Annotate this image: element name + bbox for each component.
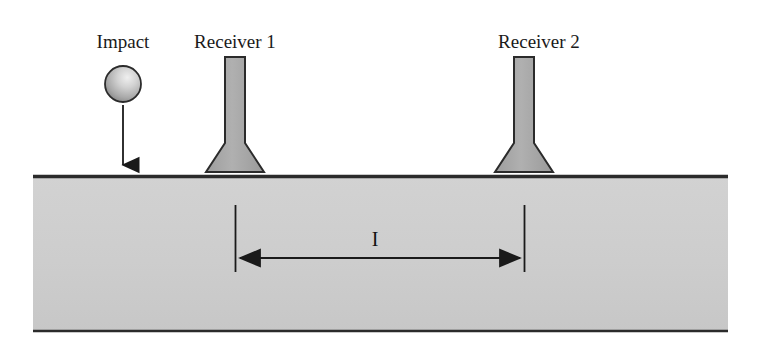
concrete-slab xyxy=(33,175,728,332)
impact-echo-diagram: I Impact Receiver 1 Receiver 2 xyxy=(0,0,762,356)
receiver-1-label: Receiver 1 xyxy=(194,31,276,52)
receiver-2-label: Receiver 2 xyxy=(498,31,580,52)
receiver-2-transducer xyxy=(495,57,553,172)
impact-ball-icon xyxy=(105,66,141,102)
impact-source xyxy=(105,66,141,165)
diagram-canvas: I Impact Receiver 1 Receiver 2 xyxy=(0,0,762,356)
slab-fill xyxy=(33,175,728,332)
receiver-1-body-icon xyxy=(206,57,264,172)
impact-label: Impact xyxy=(97,31,150,52)
spacing-label: I xyxy=(372,228,379,250)
receiver-2-body-icon xyxy=(495,57,553,172)
receiver-1-transducer xyxy=(206,57,264,172)
